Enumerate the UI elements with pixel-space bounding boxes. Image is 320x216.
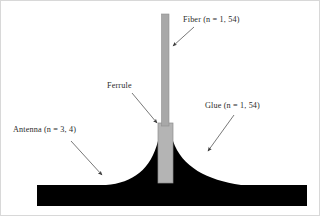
antenna-slab [37,185,307,206]
diagram-canvas [1,1,320,216]
ferrule-body [158,123,173,183]
label-antenna: Antenna (n = 3, 4) [13,125,76,135]
ferrule-arrow [132,93,157,123]
label-glue: Glue (n = 1, 54) [205,101,260,111]
diagram-figure: Fiber (n = 1, 54) Ferrule Glue (n = 1, 5… [0,0,320,216]
glue-arrow [208,115,234,151]
fiber-body [162,14,170,126]
glue-mound [106,132,241,185]
label-fiber: Fiber (n = 1, 54) [183,15,240,25]
antenna-arrow [71,141,102,175]
label-ferrule: Ferrule [107,81,132,91]
fiber-arrow [173,27,194,46]
